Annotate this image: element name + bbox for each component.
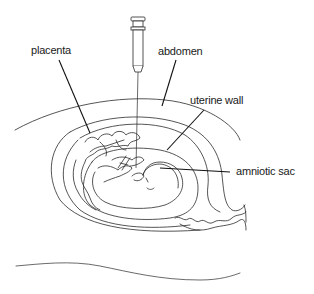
fetus-mouth bbox=[147, 188, 154, 190]
uterine-wall-inner bbox=[80, 124, 220, 212]
syringe-plunger-top bbox=[131, 17, 145, 21]
syringe-barrel bbox=[133, 30, 143, 66]
fetus-ear bbox=[146, 178, 148, 182]
label-uterine-wall: uterine wall bbox=[190, 94, 243, 106]
back-curve bbox=[16, 263, 240, 280]
fetus-hand bbox=[132, 173, 144, 181]
placenta-leader bbox=[59, 60, 90, 133]
syringe bbox=[131, 17, 145, 168]
amniocentesis-diagram: placenta abdomen uterine wall amniotic s… bbox=[0, 0, 314, 294]
syringe-needle bbox=[136, 72, 138, 168]
syringe-tip bbox=[133, 66, 143, 72]
abdomen-leader bbox=[162, 60, 176, 106]
label-placenta: placenta bbox=[31, 44, 71, 56]
uterine-wall-leader bbox=[167, 110, 204, 150]
placenta-outer bbox=[81, 131, 140, 210]
amniotic-sac-leader bbox=[160, 168, 230, 172]
label-abdomen: abdomen bbox=[158, 45, 202, 57]
syringe-flange bbox=[131, 27, 145, 30]
label-amniotic-sac: amniotic sac bbox=[236, 165, 295, 177]
syringe-plunger-shaft bbox=[133, 21, 143, 27]
fetus-arm bbox=[98, 166, 132, 182]
cervix-wavy bbox=[175, 212, 246, 223]
